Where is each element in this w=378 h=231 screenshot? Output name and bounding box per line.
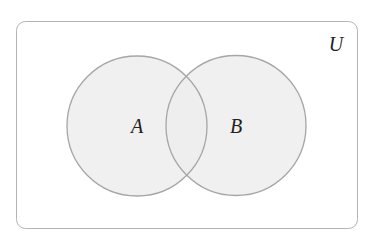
venn-diagram: U A B [0, 0, 378, 231]
set-a-label: A [129, 115, 144, 137]
universe-label: U [329, 33, 345, 55]
set-b-label: B [230, 115, 242, 137]
